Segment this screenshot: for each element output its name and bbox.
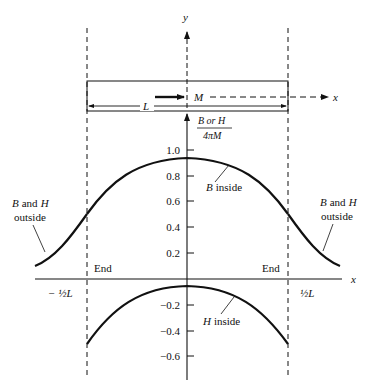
left-outside-leader: [33, 225, 45, 252]
upper-y-axis-label: y: [182, 11, 188, 23]
svg-text:0.4: 0.4: [166, 221, 180, 233]
magnetization-label: M: [193, 91, 204, 103]
right-end-label: End: [262, 262, 280, 274]
svg-text:−0.4: −0.4: [160, 325, 180, 337]
right-outside-label-line1: BandH: [320, 196, 358, 208]
b-inside-label: Binside: [206, 181, 242, 193]
svg-text:−0.6: −0.6: [160, 350, 180, 362]
left-end-label: End: [94, 262, 112, 274]
right-outside-leader: [323, 224, 333, 251]
h-inside-label: Hinside: [202, 315, 240, 327]
svg-text:1.0: 1.0: [166, 144, 180, 156]
magnetized-bar-field-diagram: y L M x B or H 4πM 1.0 0.8 0.6 0.4 0.2 −…: [0, 0, 373, 387]
left-end-marker: − ½L: [48, 287, 73, 299]
x-axis-label: x: [350, 273, 356, 285]
length-label: L: [142, 100, 149, 112]
ordinate-label-numerator: B or H: [198, 115, 226, 126]
svg-text:−0.2: −0.2: [160, 299, 180, 311]
y-ticks: [187, 150, 194, 356]
left-outside-label-line1: BandH: [12, 197, 50, 209]
svg-text:0.6: 0.6: [166, 195, 180, 207]
ordinate-label-denominator: 4πM: [203, 130, 222, 141]
svg-text:0.8: 0.8: [166, 170, 180, 182]
svg-text:0.2: 0.2: [166, 247, 180, 259]
upper-x-axis-label: x: [332, 91, 338, 103]
right-end-marker: ½L: [300, 287, 314, 299]
b-inside-leader: [215, 165, 229, 182]
left-outside-label-line2: outside: [14, 211, 46, 223]
h-inside-leader: [221, 297, 234, 314]
right-outside-label-line2: outside: [321, 210, 353, 222]
y-tick-labels: 1.0 0.8 0.6 0.4 0.2 −0.2 −0.4 −0.6: [160, 144, 180, 362]
